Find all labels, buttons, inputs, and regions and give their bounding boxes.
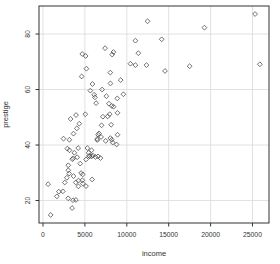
data-point-marker	[133, 38, 138, 43]
x-axis: 0500010000150002000025000	[41, 223, 262, 238]
data-point-marker	[74, 126, 79, 131]
plot-border	[39, 6, 269, 223]
data-point-marker	[103, 138, 108, 143]
x-tick-label: 20000	[201, 231, 220, 238]
data-point-marker	[66, 196, 71, 201]
data-point-marker	[83, 112, 88, 117]
x-tick-label: 0	[41, 231, 45, 238]
x-tick-label: 5000	[77, 231, 92, 238]
data-point-marker	[253, 12, 258, 17]
data-point-marker	[133, 63, 138, 68]
data-points	[46, 12, 263, 218]
data-point-marker	[72, 150, 77, 155]
data-point-marker	[90, 82, 95, 87]
data-point-marker	[115, 96, 120, 101]
data-point-marker	[48, 213, 53, 218]
data-point-marker	[85, 146, 90, 151]
data-point-marker	[71, 174, 76, 179]
scatter-plot-figure: 0500010000150002000025000 20406080 incom…	[0, 0, 280, 264]
gridlines	[39, 6, 269, 223]
data-point-marker	[187, 64, 192, 69]
data-point-marker	[145, 19, 150, 24]
data-point-marker	[108, 70, 113, 75]
data-point-marker	[107, 101, 112, 106]
data-point-marker	[121, 92, 126, 97]
data-point-marker	[159, 37, 164, 42]
data-point-marker	[62, 180, 67, 185]
data-point-marker	[67, 137, 72, 142]
data-point-marker	[74, 113, 79, 118]
data-point-marker	[88, 88, 93, 93]
data-point-marker	[128, 61, 133, 66]
data-point-marker	[115, 110, 120, 115]
x-axis-label: income	[142, 249, 166, 258]
data-point-marker	[144, 63, 149, 68]
data-point-marker	[90, 177, 95, 182]
data-point-marker	[103, 46, 108, 51]
x-tick-label: 25000	[243, 231, 262, 238]
y-axis-label: prestige	[1, 101, 10, 128]
data-point-marker	[99, 123, 104, 128]
data-point-marker	[54, 194, 59, 199]
data-point-marker	[115, 132, 120, 137]
y-tick-label: 20	[24, 197, 31, 205]
y-axis: 20406080	[24, 30, 39, 204]
data-point-marker	[108, 81, 113, 86]
y-tick-label: 40	[24, 141, 31, 149]
data-point-marker	[64, 175, 69, 180]
data-point-marker	[84, 157, 89, 162]
data-point-marker	[104, 94, 109, 99]
data-point-marker	[46, 182, 51, 187]
x-tick-label: 15000	[159, 231, 178, 238]
data-point-marker	[61, 136, 66, 141]
data-point-marker	[136, 51, 141, 56]
data-point-marker	[68, 117, 73, 122]
plot-canvas: 0500010000150002000025000 20406080 incom…	[0, 0, 280, 264]
data-point-marker	[202, 25, 207, 30]
data-point-marker	[109, 122, 114, 127]
x-tick-label: 10000	[117, 231, 136, 238]
data-point-marker	[118, 78, 123, 83]
data-point-marker	[77, 121, 82, 126]
data-point-marker	[94, 101, 99, 106]
data-point-marker	[66, 163, 71, 168]
data-point-marker	[100, 114, 105, 119]
data-point-marker	[78, 161, 83, 166]
data-point-marker	[79, 74, 84, 79]
data-point-marker	[93, 95, 98, 100]
data-point-marker	[71, 131, 76, 136]
data-point-marker	[76, 184, 81, 189]
y-tick-label: 80	[24, 30, 31, 38]
data-point-marker	[257, 62, 262, 67]
data-point-marker	[92, 92, 97, 97]
y-tick-label: 60	[24, 86, 31, 94]
data-point-marker	[76, 146, 81, 151]
data-point-marker	[70, 206, 75, 211]
data-point-marker	[163, 69, 168, 74]
